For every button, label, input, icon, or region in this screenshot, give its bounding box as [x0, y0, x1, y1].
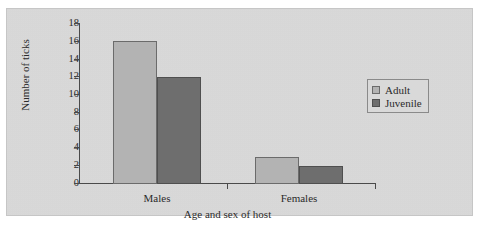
y-tick-row: 0	[7, 178, 79, 188]
y-tick-mark	[74, 94, 79, 95]
bar-females-adult	[255, 157, 299, 184]
figure: 18 16 14 12 10 8 6	[0, 0, 479, 232]
y-tick-row: 14	[7, 54, 79, 64]
y-tick-mark	[74, 183, 79, 184]
juvenile-swatch-icon	[372, 99, 380, 107]
y-tick-row: 4	[7, 142, 79, 152]
x-category-label-females: Females	[259, 192, 339, 205]
y-tick-row: 8	[7, 107, 79, 117]
legend-label-adult: Adult	[385, 84, 410, 96]
y-tick-row: 2	[7, 160, 79, 170]
y-tick-row: 10	[7, 89, 79, 99]
bar-males-adult	[113, 41, 157, 184]
y-tick-mark	[74, 129, 79, 130]
bar-chart-plot: 18 16 14 12 10 8 6	[7, 9, 474, 217]
y-tick-row: 12	[7, 71, 79, 81]
x-tick-mark	[227, 184, 228, 189]
legend-entry-juvenile: Juvenile	[372, 96, 422, 109]
legend-entry-adult: Adult	[372, 83, 422, 96]
adult-swatch-icon	[372, 86, 380, 94]
y-tick-mark	[74, 41, 79, 42]
y-tick-mark	[74, 147, 79, 148]
y-axis-line	[79, 23, 80, 184]
legend-label-juvenile: Juvenile	[385, 97, 422, 109]
y-tick-mark	[74, 76, 79, 77]
y-tick-row: 6	[7, 124, 79, 134]
bar-females-juvenile	[299, 166, 343, 184]
chart-legend: Adult Juvenile	[367, 79, 429, 113]
y-tick-mark	[74, 59, 79, 60]
y-tick-mark	[74, 112, 79, 113]
x-axis-title: Age and sex of host	[79, 208, 376, 220]
x-tick-mark	[375, 184, 376, 189]
y-tick-row: 16	[7, 36, 79, 46]
scanned-page-area: 18 16 14 12 10 8 6	[6, 8, 473, 216]
y-axis-title: Number of ticks	[19, 15, 31, 135]
bar-males-juvenile	[157, 77, 201, 184]
y-tick-mark	[74, 23, 79, 24]
x-category-label-males: Males	[117, 192, 197, 205]
y-tick-mark	[74, 165, 79, 166]
y-tick-row: 18	[7, 18, 79, 28]
